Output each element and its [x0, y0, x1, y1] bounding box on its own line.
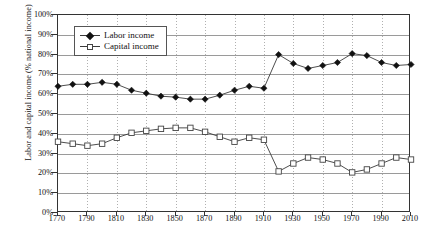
- y-axis-tick-label: 30%: [19, 148, 53, 157]
- data-point-marker: [364, 167, 369, 172]
- y-axis-tick-label: 20%: [19, 168, 53, 177]
- legend-label-capital-income: Capital income: [100, 41, 159, 52]
- data-point-marker: [70, 141, 75, 146]
- y-axis-tick-label: 90%: [19, 29, 53, 38]
- data-point-marker: [290, 60, 296, 66]
- legend-item-capital-income: Capital income: [80, 41, 159, 52]
- data-point-marker: [84, 81, 90, 87]
- legend-item-labor-income: Labor income: [80, 30, 159, 41]
- data-point-marker: [261, 85, 267, 91]
- data-point-marker: [305, 65, 311, 71]
- data-point-marker: [408, 61, 414, 67]
- y-axis-tick-label: 100%: [19, 10, 53, 19]
- data-point-marker: [129, 130, 134, 135]
- legend-label-labor-income: Labor income: [100, 30, 154, 41]
- data-point-marker: [408, 157, 413, 162]
- data-point-marker: [217, 92, 223, 98]
- y-axis-tick-label: 60%: [19, 89, 53, 98]
- open-square-icon: [80, 42, 100, 52]
- data-point-marker: [349, 170, 354, 175]
- data-point-marker: [232, 139, 237, 144]
- data-point-marker: [158, 93, 164, 99]
- data-point-marker: [217, 134, 222, 139]
- data-point-marker: [187, 96, 193, 102]
- chart-container: Labor and capital income (% national inc…: [0, 0, 425, 241]
- filled-diamond-icon: [80, 31, 100, 41]
- data-point-marker: [99, 79, 105, 85]
- data-point-marker: [114, 81, 120, 87]
- series-line-capital-income: [58, 128, 411, 173]
- data-point-marker: [70, 81, 76, 87]
- data-point-marker: [349, 51, 355, 57]
- data-point-marker: [379, 161, 384, 166]
- data-point-marker: [305, 155, 310, 160]
- data-point-marker: [320, 157, 325, 162]
- y-axis-tick-label: 80%: [19, 49, 53, 58]
- y-axis-tick-label: 40%: [19, 128, 53, 137]
- data-point-marker: [276, 52, 282, 58]
- data-point-marker: [55, 139, 60, 144]
- data-point-marker: [261, 137, 266, 142]
- data-point-marker: [393, 62, 399, 68]
- data-point-marker: [143, 90, 149, 96]
- data-point-marker: [378, 59, 384, 65]
- data-point-marker: [247, 135, 252, 140]
- data-point-marker: [335, 161, 340, 166]
- data-point-marker: [202, 96, 208, 102]
- data-point-marker: [291, 161, 296, 166]
- data-point-marker: [99, 141, 104, 146]
- y-axis-tick-label: 10%: [19, 188, 53, 197]
- data-point-marker: [276, 169, 281, 174]
- x-axis-tick-label: 2010: [390, 214, 425, 223]
- data-point-marker: [231, 87, 237, 93]
- y-axis-tick-label: 50%: [19, 109, 53, 118]
- data-point-marker: [320, 62, 326, 68]
- data-point-marker: [394, 155, 399, 160]
- data-point-marker: [334, 59, 340, 65]
- data-point-marker: [128, 87, 134, 93]
- data-point-marker: [144, 128, 149, 133]
- y-axis-tick-label: 70%: [19, 69, 53, 78]
- data-point-marker: [85, 143, 90, 148]
- data-point-marker: [246, 83, 252, 89]
- data-point-marker: [364, 52, 370, 58]
- data-point-marker: [173, 94, 179, 100]
- chart-legend: Labor income Capital income: [74, 26, 167, 56]
- data-point-marker: [173, 125, 178, 130]
- data-point-marker: [114, 135, 119, 140]
- data-point-marker: [188, 125, 193, 130]
- data-point-marker: [55, 83, 61, 89]
- data-point-marker: [158, 126, 163, 131]
- data-point-marker: [202, 129, 207, 134]
